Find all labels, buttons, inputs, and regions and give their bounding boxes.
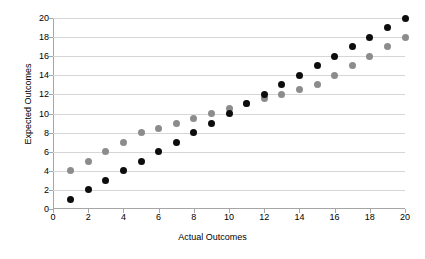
data-point xyxy=(349,62,356,69)
data-point xyxy=(190,115,197,122)
y-axis-tick xyxy=(49,75,53,76)
data-point xyxy=(208,120,215,127)
data-point xyxy=(173,120,180,127)
gridline xyxy=(53,171,405,172)
x-axis-tick-label: 14 xyxy=(294,212,304,223)
y-axis-tick-label: 10 xyxy=(39,109,49,118)
x-axis-title: Actual Outcomes xyxy=(0,232,425,242)
y-axis-tick-labels: 02468101214161820 xyxy=(24,18,49,209)
data-point xyxy=(120,139,127,146)
x-axis-tick-label: 8 xyxy=(191,212,196,223)
gridline xyxy=(53,56,405,57)
gridline xyxy=(53,94,405,95)
y-axis-tick xyxy=(49,152,53,153)
data-point xyxy=(155,148,162,155)
gridline xyxy=(53,18,405,19)
y-axis-tick xyxy=(49,37,53,38)
x-axis-tick-labels: 02468101214161820 xyxy=(53,212,405,226)
gridline xyxy=(53,37,405,38)
x-axis-tick-label: 20 xyxy=(400,212,410,223)
data-point xyxy=(173,139,180,146)
data-point xyxy=(384,43,391,50)
plot-area xyxy=(53,18,405,209)
data-point xyxy=(67,167,74,174)
data-point xyxy=(208,110,215,117)
y-axis-tick-label: 12 xyxy=(39,90,49,99)
y-axis-tick-label: 20 xyxy=(39,14,49,23)
y-axis-tick-label: 18 xyxy=(39,33,49,42)
x-axis-tick-label: 16 xyxy=(330,212,340,223)
data-point xyxy=(102,177,109,184)
x-axis-tick-label: 0 xyxy=(50,212,55,223)
data-point xyxy=(366,34,373,41)
y-axis-tick xyxy=(49,56,53,57)
y-axis-tick-label: 14 xyxy=(39,71,49,80)
gridline xyxy=(53,190,405,191)
data-point xyxy=(120,167,127,174)
gridline xyxy=(53,75,405,76)
y-axis-tick xyxy=(49,114,53,115)
x-axis-tick-label: 18 xyxy=(365,212,375,223)
data-point xyxy=(402,34,409,41)
data-point xyxy=(85,158,92,165)
x-axis-tick-label: 6 xyxy=(156,212,161,223)
data-point xyxy=(349,43,356,50)
y-axis-tick-label: 16 xyxy=(39,52,49,61)
data-point xyxy=(331,72,338,79)
data-point xyxy=(314,62,321,69)
data-point xyxy=(226,110,233,117)
y-axis-tick xyxy=(49,190,53,191)
x-axis-tick-label: 10 xyxy=(224,212,234,223)
data-point xyxy=(261,91,268,98)
data-point xyxy=(138,158,145,165)
data-point xyxy=(402,15,409,22)
y-axis-tick xyxy=(49,18,53,19)
x-axis-tick-label: 12 xyxy=(259,212,269,223)
data-point xyxy=(155,125,162,132)
data-point xyxy=(296,86,303,93)
data-point xyxy=(190,129,197,136)
x-axis-tick-label: 2 xyxy=(86,212,91,223)
data-point xyxy=(67,196,74,203)
y-axis-tick xyxy=(49,133,53,134)
y-axis-tick xyxy=(49,94,53,95)
data-point xyxy=(384,24,391,31)
data-point xyxy=(314,81,321,88)
scatter-chart: Expected Outcomes 02468101214161820 0246… xyxy=(0,0,425,259)
data-point xyxy=(366,53,373,60)
data-point xyxy=(243,100,250,107)
data-point xyxy=(102,148,109,155)
data-point xyxy=(278,91,285,98)
data-point xyxy=(138,129,145,136)
data-point xyxy=(296,72,303,79)
x-axis-tick-label: 4 xyxy=(121,212,126,223)
data-point xyxy=(331,53,338,60)
y-axis-tick xyxy=(49,171,53,172)
data-point xyxy=(85,186,92,193)
data-point xyxy=(278,81,285,88)
gridline xyxy=(53,133,405,134)
